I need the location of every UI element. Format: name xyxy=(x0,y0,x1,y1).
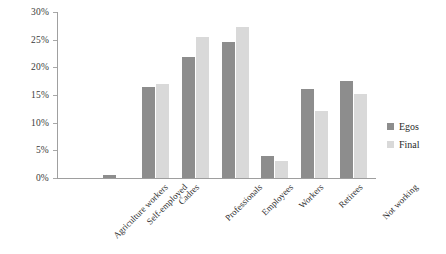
bar-final xyxy=(275,161,288,178)
x-axis-tick-label: Retirees xyxy=(336,182,364,210)
bar-egos xyxy=(340,81,353,178)
x-axis-tick-label: Workers xyxy=(297,182,325,210)
bar-group xyxy=(58,12,98,178)
y-axis-tick-label: 10% xyxy=(31,118,49,128)
legend-item: Egos xyxy=(387,117,445,135)
bar-final xyxy=(354,94,367,178)
bar-final xyxy=(156,84,169,178)
bar-group xyxy=(98,12,138,178)
bar-final xyxy=(196,37,209,178)
y-axis-tick-label: 5% xyxy=(36,145,49,155)
y-axis-tick-label: 15% xyxy=(31,90,49,100)
y-axis-tick-label: 30% xyxy=(31,7,49,17)
x-axis: Agriculture workersSelf-employedCadresPr… xyxy=(58,179,375,254)
legend-label: Final xyxy=(399,139,420,150)
bar-group xyxy=(137,12,177,178)
y-axis-tick-label: 25% xyxy=(31,35,49,45)
chart-legend: EgosFinal xyxy=(387,117,445,153)
bar-egos xyxy=(142,87,155,178)
legend-label: Egos xyxy=(399,121,419,132)
bar-group xyxy=(217,12,257,178)
legend-swatch-icon xyxy=(387,123,394,130)
x-axis-tick-label: Not working xyxy=(381,182,420,221)
bar-group xyxy=(296,12,336,178)
bar-chart: 0%5%10%15%20%25%30% Agriculture workersS… xyxy=(0,0,446,254)
y-axis-tick-label: 0% xyxy=(36,173,49,183)
x-axis-tick-label: Professionals xyxy=(223,182,264,223)
bar-group xyxy=(177,12,217,178)
legend-swatch-icon xyxy=(387,141,394,148)
bar-group xyxy=(335,12,375,178)
y-axis-tick-label: 20% xyxy=(31,62,49,72)
bar-group xyxy=(256,12,296,178)
plot-area xyxy=(58,12,375,178)
bar-egos xyxy=(222,42,235,178)
y-axis: 0%5%10%15%20%25%30% xyxy=(0,0,57,254)
x-axis-tick-label: Employees xyxy=(260,182,295,217)
bar-final xyxy=(315,111,328,179)
bar-egos xyxy=(301,89,314,178)
bar-final xyxy=(236,27,249,178)
bar-egos xyxy=(261,156,274,178)
bar-egos xyxy=(182,57,195,178)
legend-item: Final xyxy=(387,135,445,153)
